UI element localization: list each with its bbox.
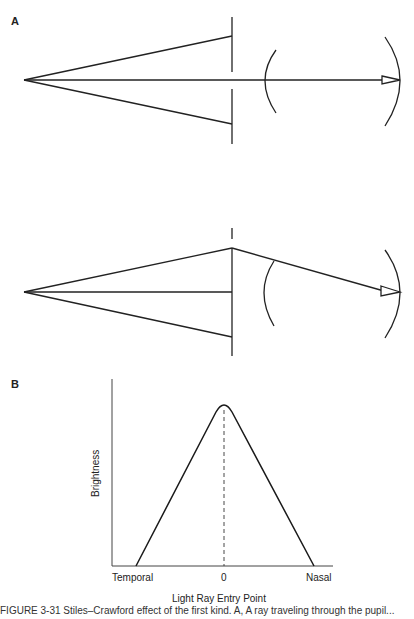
ray-arrowhead-icon (381, 286, 400, 296)
x-tick-zero: 0 (221, 572, 227, 583)
cone-lower-ray (24, 292, 232, 337)
panel-a2-diagram (24, 228, 400, 356)
cone-upper-ray (24, 36, 232, 80)
brightness-curve (136, 405, 314, 566)
panel-a-diagram (24, 17, 400, 144)
oblique-ray (232, 248, 384, 291)
lens-arc (264, 261, 274, 326)
y-axis-label: Brightness (90, 450, 101, 497)
x-axis-label: Light Ray Entry Point (172, 593, 266, 604)
figure-caption: FIGURE 3-31 Stiles–Crawford effect of th… (0, 605, 414, 616)
cone-upper-ray (24, 248, 232, 292)
cone-lower-ray (24, 80, 232, 124)
diagram-canvas: Temporal 0 Nasal Light Ray Entry Point B… (0, 0, 414, 619)
x-tick-nasal: Nasal (306, 572, 332, 583)
x-tick-temporal: Temporal (112, 572, 153, 583)
panel-b-label: B (11, 378, 19, 390)
ray-arrowhead-icon (382, 76, 400, 84)
lens-arc (265, 50, 276, 113)
brightness-chart: Temporal 0 Nasal Light Ray Entry Point B… (90, 379, 333, 604)
